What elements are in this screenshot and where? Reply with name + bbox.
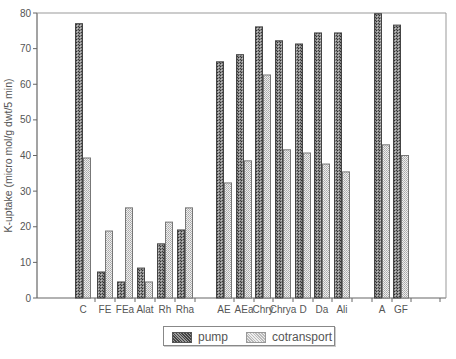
y-tick-label: 70 (20, 43, 32, 54)
legend-label-cotransport: cotransport (272, 330, 332, 344)
y-tick-label: 60 (20, 79, 32, 90)
legend-label-pump: pump (198, 330, 228, 344)
bar-pump (118, 282, 125, 298)
bar-group-c (76, 24, 91, 298)
bar-pump (76, 24, 83, 298)
y-tick-label: 40 (20, 150, 32, 161)
bar-cotransport (323, 164, 330, 298)
y-tick-label: 30 (20, 186, 32, 197)
bar-group-rh (158, 222, 173, 298)
y-axis-label: K-uptake (micro mol/g dwt/5 min) (2, 78, 14, 232)
bar-cotransport (245, 161, 252, 298)
bar-group-chrya (276, 41, 291, 298)
bar-group-alat (138, 268, 153, 298)
x-category-label: Rh (159, 304, 172, 315)
bar-pump (315, 33, 322, 298)
bar-pump (158, 244, 165, 298)
bar-group-da (315, 33, 330, 298)
legend: pump cotransport (163, 326, 335, 346)
bar-cotransport (106, 231, 113, 298)
y-tick-label: 20 (20, 221, 32, 232)
bars (76, 14, 409, 298)
legend-item-cotransport: cotransport (246, 330, 332, 344)
bar-group-ali (335, 33, 350, 298)
x-category-label: FE (99, 304, 112, 315)
bar-group-a (375, 14, 390, 298)
bar-cotransport (264, 75, 271, 298)
bar-cotransport (84, 158, 91, 298)
bar-cotransport (343, 172, 350, 298)
bar-group-chry (256, 27, 271, 298)
x-category-label: D (299, 304, 306, 315)
bar-pump (375, 14, 382, 298)
cotransport-swatch-icon (246, 332, 266, 343)
bar-cotransport (304, 153, 311, 298)
bar-cotransport (284, 150, 291, 298)
bar-cotransport (166, 222, 173, 298)
bar-group-ae (217, 62, 232, 298)
bar-group-gf (394, 25, 409, 298)
x-category-label: AE (217, 304, 231, 315)
bar-pump (178, 230, 185, 298)
bar-group-d (296, 44, 311, 298)
bar-cotransport (146, 282, 153, 298)
y-tick-label: 0 (25, 293, 31, 304)
x-category-label: FEa (116, 304, 135, 315)
y-tick-label: 80 (20, 8, 32, 19)
bar-group-rha (178, 208, 193, 298)
bar-pump (237, 55, 244, 298)
bar-chart: 01020304050607080K-uptake (micro mol/g d… (0, 0, 456, 359)
bar-pump (296, 44, 303, 298)
legend-item-pump: pump (172, 330, 228, 344)
bar-cotransport (402, 156, 409, 299)
y-tick-label: 10 (20, 257, 32, 268)
bar-cotransport (225, 183, 232, 298)
bar-group-fea (118, 208, 133, 298)
bar-cotransport (383, 145, 390, 298)
bar-cotransport (126, 208, 133, 298)
bar-pump (335, 33, 342, 298)
x-category-label: GF (394, 304, 408, 315)
x-category-label: C (79, 304, 86, 315)
y-tick-label: 50 (20, 114, 32, 125)
bar-pump (217, 62, 224, 298)
x-category-label: Rha (176, 304, 195, 315)
bar-pump (98, 272, 105, 298)
bar-pump (276, 41, 283, 298)
bar-group-fe (98, 231, 113, 298)
x-category-label: Alat (136, 304, 153, 315)
x-category-label: A (379, 304, 386, 315)
bar-group-aea (237, 55, 252, 298)
pump-swatch-icon (172, 332, 192, 343)
bar-pump (394, 25, 401, 298)
bar-pump (256, 27, 263, 298)
x-category-label: Da (316, 304, 329, 315)
bar-pump (138, 268, 145, 298)
bar-cotransport (186, 208, 193, 298)
x-category-label: Chrya (270, 304, 297, 315)
x-category-label: Ali (336, 304, 347, 315)
x-category-label: AEa (235, 304, 254, 315)
